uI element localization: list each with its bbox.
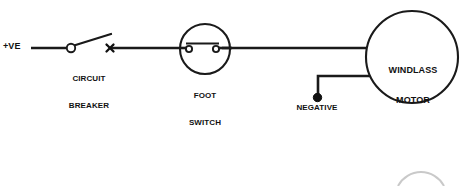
negative-terminal-label: NEGATIVE — [296, 104, 337, 113]
positive-supply-label: +VE — [3, 41, 21, 51]
circuit-breaker-label-line2: BREAKER — [69, 102, 109, 111]
negative-terminal-dot-icon — [313, 93, 321, 101]
circuit-breaker-arm — [74, 34, 111, 46]
foot-switch-left-terminal-icon — [186, 46, 192, 52]
wire-motor-to-negative — [318, 76, 372, 96]
windlass-motor-label-line1: WINDLASS — [389, 65, 438, 75]
foot-switch-label: FOOT SWITCH — [189, 74, 221, 146]
foot-switch-label-line2: SWITCH — [189, 119, 221, 128]
foot-switch-label-line1: FOOT — [189, 92, 221, 101]
circuit-breaker-label-line1: CIRCUIT — [69, 75, 109, 84]
foot-switch-right-terminal-icon — [213, 46, 219, 52]
windlass-motor-label-line2: MOTOR — [389, 95, 438, 105]
wiring-diagram: +VE CIRCUIT BREAKER FOOT SWITCH NEGATIVE… — [0, 0, 460, 186]
windlass-motor-label: WINDLASS MOTOR — [389, 45, 438, 126]
circuit-breaker-label: CIRCUIT BREAKER — [69, 57, 109, 129]
next-diagram-partial-circle-icon — [398, 172, 444, 186]
circuit-breaker-pivot-terminal-icon — [67, 44, 75, 52]
